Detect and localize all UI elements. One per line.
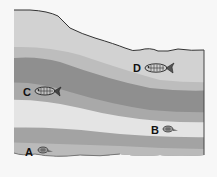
label-c: C: [23, 86, 31, 98]
label-d: D: [133, 62, 141, 74]
label-b: B: [151, 124, 159, 136]
rock-layers-diagram: D C B A: [0, 0, 217, 177]
label-a: A: [25, 146, 33, 158]
